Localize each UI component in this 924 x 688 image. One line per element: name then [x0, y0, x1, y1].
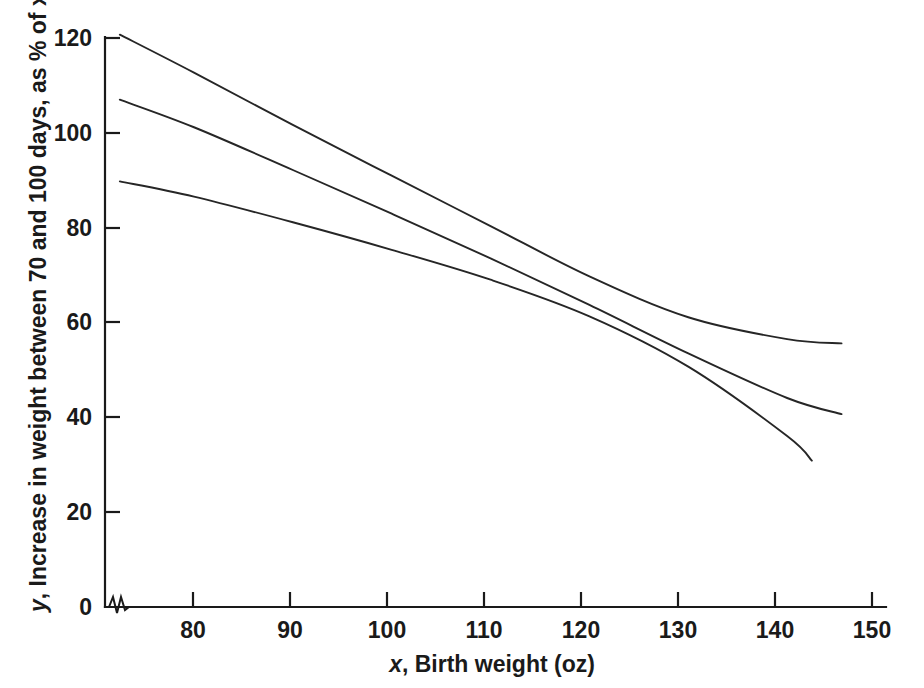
series-line-upper-band — [120, 35, 842, 344]
y-tick-label: 80 — [66, 215, 92, 241]
x-tick-label: 130 — [659, 617, 697, 643]
x-axis-title-rest: , Birth weight (oz) — [402, 651, 595, 677]
y-tick-label: 120 — [54, 25, 92, 51]
series-line-central — [120, 100, 842, 414]
x-tick-label: 150 — [853, 617, 891, 643]
y-tick-labels: 120 100 80 60 40 20 0 — [54, 25, 92, 620]
x-axis-title: x, Birth weight (oz) — [387, 651, 595, 677]
x-tick-label: 110 — [465, 617, 502, 643]
y-axis-ticks — [105, 38, 120, 512]
data-series-group — [120, 35, 842, 461]
chart-plot-area: 120 100 80 60 40 20 0 80 90 100 110 120 … — [0, 0, 924, 688]
y-axis-title-rest: , Increase in weight between 70 and 100 … — [25, 0, 51, 599]
x-tick-label: 80 — [180, 617, 206, 643]
chart-figure: 120 100 80 60 40 20 0 80 90 100 110 120 … — [0, 0, 924, 688]
y-tick-label: 20 — [66, 499, 92, 525]
axis-break-zigzag-icon — [109, 597, 129, 613]
y-tick-label: 100 — [54, 120, 92, 146]
x-tick-label: 90 — [277, 617, 303, 643]
y-axis-title: y, Increase in weight between 70 and 100… — [25, 0, 51, 613]
x-axis-ticks — [193, 592, 872, 607]
y-origin-label: 0 — [79, 594, 92, 620]
x-tick-label: 100 — [368, 617, 406, 643]
y-tick-label: 40 — [66, 404, 92, 430]
x-tick-label: 120 — [562, 617, 600, 643]
series-line-lower-band — [120, 181, 812, 460]
x-axis-title-symbol: x — [387, 651, 403, 677]
x-tick-labels: 80 90 100 110 120 130 140 150 — [180, 617, 891, 643]
y-axis-title-symbol: y — [25, 598, 51, 613]
y-tick-label: 60 — [66, 309, 92, 335]
x-tick-label: 140 — [756, 617, 794, 643]
